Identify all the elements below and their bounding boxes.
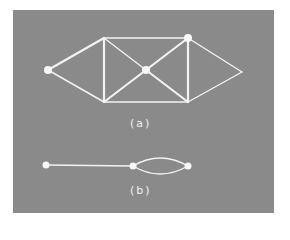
edge-topright-right (188, 38, 242, 72)
node-top-right (184, 34, 192, 42)
graph-b (43, 158, 192, 174)
node-b-left (43, 162, 50, 169)
edge-b-straight (46, 165, 133, 166)
label-a: (a) (130, 117, 151, 130)
graph-a (44, 34, 242, 102)
edge-b-arc-upper (133, 158, 188, 166)
node-center (142, 66, 150, 74)
edge-bottomright-right (188, 72, 242, 102)
edge-left-topleft (48, 38, 104, 70)
edge-bottomleft-center (104, 70, 146, 102)
edge-b-arc-lower (133, 166, 188, 174)
node-left (44, 66, 52, 74)
edge-left-bottomleft (48, 70, 104, 102)
edge-center-topright (146, 38, 188, 70)
edge-topleft-center (104, 38, 146, 70)
node-b-right (185, 163, 192, 170)
node-b-middle (130, 163, 137, 170)
edge-center-bottomright (146, 70, 188, 102)
label-b: (b) (130, 184, 152, 197)
